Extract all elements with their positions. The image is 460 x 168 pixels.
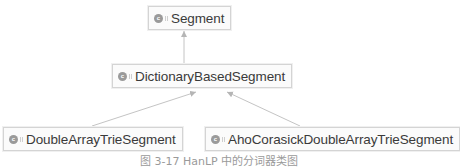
class-icon: c <box>211 135 220 144</box>
class-node-segment[interactable]: c Segment <box>148 6 231 30</box>
class-icon: c <box>154 14 163 23</box>
visibility-icon <box>20 137 23 142</box>
visibility-icon <box>165 16 168 21</box>
visibility-icon <box>129 74 132 79</box>
class-node-dictionary-based-segment[interactable]: c DictionaryBasedSegment <box>112 64 292 88</box>
edge-ahocorasick-to-dictionary <box>227 92 300 126</box>
class-icon: c <box>9 135 18 144</box>
class-icon: c <box>118 72 127 81</box>
class-node-aho-corasick-double-array-trie-segment[interactable]: c AhoCorasickDoubleArrayTrieSegment <box>205 127 460 151</box>
figure-caption: 图 3-17 HanLP 中的分词器类图 <box>140 152 298 168</box>
class-name: Segment <box>171 11 224 26</box>
edge-doublearray-to-dictionary <box>92 92 196 126</box>
class-name: AhoCorasickDoubleArrayTrieSegment <box>228 132 453 147</box>
class-node-double-array-trie-segment[interactable]: c DoubleArrayTrieSegment <box>3 127 183 151</box>
class-name: DictionaryBasedSegment <box>135 69 285 84</box>
class-name: DoubleArrayTrieSegment <box>26 132 176 147</box>
visibility-icon <box>222 137 225 142</box>
